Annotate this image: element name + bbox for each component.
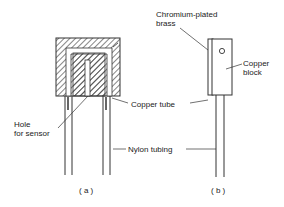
sensor-block-a bbox=[56, 38, 120, 96]
label-hole-for-sensor: Hole for sensor bbox=[14, 120, 50, 138]
label-line: Copper bbox=[243, 59, 269, 68]
label-line: Hole bbox=[14, 120, 50, 129]
label-panel-a: ( a ) bbox=[79, 186, 93, 195]
label-line: for sensor bbox=[14, 129, 50, 138]
label-line: block bbox=[243, 68, 269, 77]
label-copper-block: Copper block bbox=[243, 59, 269, 77]
label-panel-b: ( b ) bbox=[211, 186, 225, 195]
sensor-block-b bbox=[208, 39, 232, 177]
label-nylon-tubing: Nylon tubing bbox=[128, 145, 172, 154]
tubes-a bbox=[65, 96, 110, 175]
label-line: brass bbox=[156, 19, 217, 28]
label-line: Chromium-plated bbox=[156, 10, 217, 19]
label-copper-tube: Copper tube bbox=[131, 100, 175, 109]
label-chromium-plated-brass: Chromium-plated brass bbox=[156, 10, 217, 28]
